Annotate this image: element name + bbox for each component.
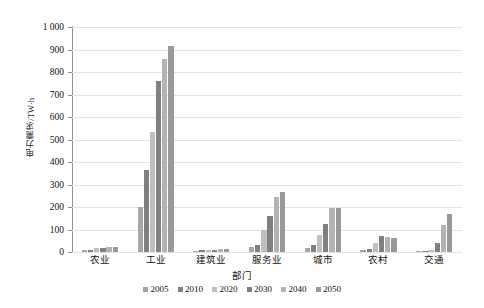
x-axis-tick-label: 交通 [406, 254, 462, 266]
y-axis-tick-label: 400 [0, 157, 64, 167]
legend-swatch-icon [281, 287, 286, 292]
grid-line [72, 252, 462, 253]
bar-group [295, 27, 351, 252]
bar [422, 251, 427, 252]
bar-group [128, 27, 184, 252]
x-axis-tick-labels: 农业工业建筑业服务业城市农村交通 [72, 254, 462, 266]
legend-label: 2020 [220, 285, 238, 294]
x-axis-tick-label: 城市 [295, 254, 351, 266]
bar [336, 208, 341, 252]
legend-item[interactable]: 2005 [143, 285, 169, 294]
legend-swatch-icon [212, 287, 217, 292]
y-axis-tick-label: 300 [0, 180, 64, 190]
legend-label: 2040 [289, 285, 307, 294]
x-axis-tick-label: 工业 [128, 254, 184, 266]
bar [267, 216, 272, 252]
y-axis-tick-label: 0 [0, 247, 64, 257]
bar [138, 207, 143, 252]
bar [280, 192, 285, 252]
legend-item[interactable]: 2050 [316, 285, 342, 294]
legend-item[interactable]: 2040 [281, 285, 307, 294]
x-axis-title: 部门 [0, 268, 484, 282]
y-axis-tick-label: 700 [0, 90, 64, 100]
bar [311, 245, 316, 252]
y-axis-tick-label: 900 [0, 45, 64, 55]
bar [379, 236, 384, 252]
legend-label: 2050 [323, 285, 341, 294]
bar-group [351, 27, 407, 252]
bar-groups [72, 27, 462, 252]
legend-swatch-icon [316, 287, 321, 292]
legend-item[interactable]: 2030 [247, 285, 273, 294]
bar [144, 170, 149, 252]
bar [317, 235, 322, 252]
y-axis-tick-label: 500 [0, 135, 64, 145]
legend-label: 2030 [254, 285, 272, 294]
x-axis-tick-label: 建筑业 [183, 254, 239, 266]
y-axis-tick-mark [68, 252, 72, 253]
bar [218, 249, 223, 252]
bar [106, 247, 111, 252]
bar [162, 59, 167, 252]
legend-item[interactable]: 2010 [178, 285, 204, 294]
bar [441, 225, 446, 252]
bar [212, 250, 217, 252]
y-axis-title: 电力需求/TW·h [27, 98, 41, 157]
bar [329, 208, 334, 252]
legend-swatch-icon [178, 287, 183, 292]
x-axis-tick-label: 农业 [72, 254, 128, 266]
bar-group [72, 27, 128, 252]
chart-container: 电力需求/TW·h 01002003004005006007008009001 … [0, 0, 484, 308]
bar [156, 81, 161, 252]
bar [261, 230, 266, 253]
bar-group [239, 27, 295, 252]
bar [305, 248, 310, 252]
bar [82, 250, 87, 252]
bar [391, 238, 396, 252]
bar [428, 250, 433, 252]
bar [94, 248, 99, 252]
bar [435, 243, 440, 252]
bar [88, 250, 93, 252]
x-axis-tick-label: 农村 [351, 254, 407, 266]
legend-swatch-icon [143, 287, 148, 292]
bar-group [183, 27, 239, 252]
legend-swatch-icon [247, 287, 252, 292]
bar [323, 224, 328, 252]
bar [168, 46, 173, 252]
y-axis-tick-label: 200 [0, 202, 64, 212]
bar [249, 247, 254, 252]
bar [255, 245, 260, 252]
legend-label: 2005 [151, 285, 169, 294]
bar [224, 249, 229, 252]
bar [373, 243, 378, 252]
y-axis-tick-label: 100 [0, 225, 64, 235]
legend-item[interactable]: 2020 [212, 285, 238, 294]
y-axis-tick-label: 800 [0, 67, 64, 77]
bar [447, 214, 452, 252]
legend-label: 2010 [185, 285, 203, 294]
bar [193, 251, 198, 252]
bar [367, 249, 372, 252]
y-axis-tick-label: 1 000 [0, 22, 64, 32]
x-axis-tick-label: 服务业 [239, 254, 295, 266]
bar [150, 132, 155, 252]
bar [274, 197, 279, 252]
bar [416, 251, 421, 252]
bar [100, 248, 105, 253]
bar [206, 250, 211, 252]
y-axis-tick-label: 600 [0, 112, 64, 122]
bar [360, 250, 365, 252]
bar [199, 250, 204, 252]
bar [113, 247, 118, 252]
chart-legend: 200520102020203020402050 [0, 285, 484, 294]
bar-group [406, 27, 462, 252]
bar [385, 237, 390, 252]
